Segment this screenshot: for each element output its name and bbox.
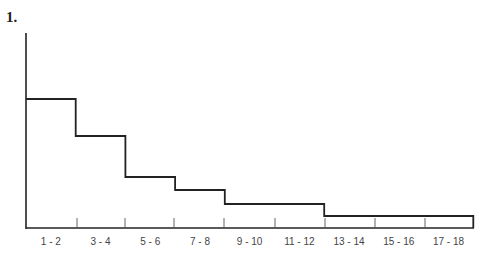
histogram-step-line [26,99,473,228]
x-tick-label: 17 - 18 [433,236,465,247]
step-histogram-chart: 1 - 23 - 45 - 67 - 89 - 1011 - 1213 - 14… [0,0,489,254]
x-axis-ticks [77,218,425,228]
x-tick-label: 5 - 6 [140,236,160,247]
x-tick-label: 11 - 12 [284,236,315,247]
x-tick-label: 3 - 4 [91,236,111,247]
x-tick-label: 15 - 16 [383,236,415,247]
x-tick-label: 13 - 14 [333,236,365,247]
x-tick-label: 9 - 10 [237,236,263,247]
x-tick-label: 7 - 8 [190,236,210,247]
x-tick-label: 1 - 2 [41,236,61,247]
x-axis-tick-labels: 1 - 23 - 45 - 67 - 89 - 1011 - 1213 - 14… [41,236,465,247]
